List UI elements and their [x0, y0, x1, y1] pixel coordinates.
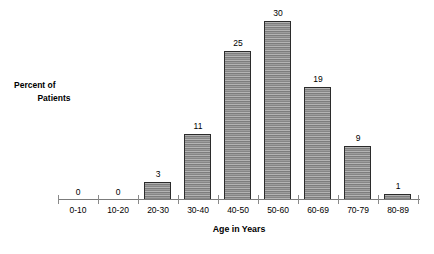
x-tick-label: 50-60: [256, 205, 300, 216]
x-axis-line: [58, 199, 420, 200]
bar[interactable]: [144, 182, 171, 200]
bar[interactable]: [304, 87, 331, 200]
x-tick-label: 60-69: [296, 205, 340, 216]
bar[interactable]: [264, 21, 291, 200]
bar-value-label: 11: [178, 121, 218, 131]
plot-area: 0031125301991: [58, 8, 418, 200]
bar[interactable]: [224, 51, 251, 200]
x-axis-tick: [178, 195, 179, 204]
x-tick-label: 20-30: [136, 205, 180, 216]
bar-value-label: 19: [298, 74, 338, 84]
x-tick-label: 40-50: [216, 205, 260, 216]
bar-value-label: 0: [58, 187, 98, 197]
bar[interactable]: [184, 134, 211, 200]
x-tick-label: 70-79: [336, 205, 380, 216]
x-axis-tick: [378, 195, 379, 204]
bar-value-label: 25: [218, 38, 258, 48]
x-axis-tick: [418, 195, 419, 204]
bar-value-label: 1: [378, 181, 418, 191]
bar-value-label: 30: [258, 8, 298, 18]
x-tick-label: 10-20: [96, 205, 140, 216]
x-axis-tick: [338, 195, 339, 204]
bar-value-label: 3: [138, 169, 178, 179]
x-tick-label: 30-40: [176, 205, 220, 216]
bar[interactable]: [344, 146, 371, 200]
x-tick-label: 80-89: [376, 205, 420, 216]
x-axis-tick: [218, 195, 219, 204]
bar-chart-figure: Percent of Patients 0031125301991 Age in…: [0, 0, 434, 254]
x-tick-label: 0-10: [56, 205, 100, 216]
x-axis-tick: [98, 195, 99, 204]
x-axis-tick: [138, 195, 139, 204]
x-axis-tick: [298, 195, 299, 204]
y-axis-label-line-1: Percent of: [14, 80, 56, 90]
bar-value-label: 0: [98, 187, 138, 197]
x-axis-title: Age in Years: [0, 224, 434, 234]
x-axis-tick: [58, 195, 59, 204]
page-bleed-row: [0, 245, 434, 254]
bar-value-label: 9: [338, 133, 378, 143]
x-axis-tick: [258, 195, 259, 204]
